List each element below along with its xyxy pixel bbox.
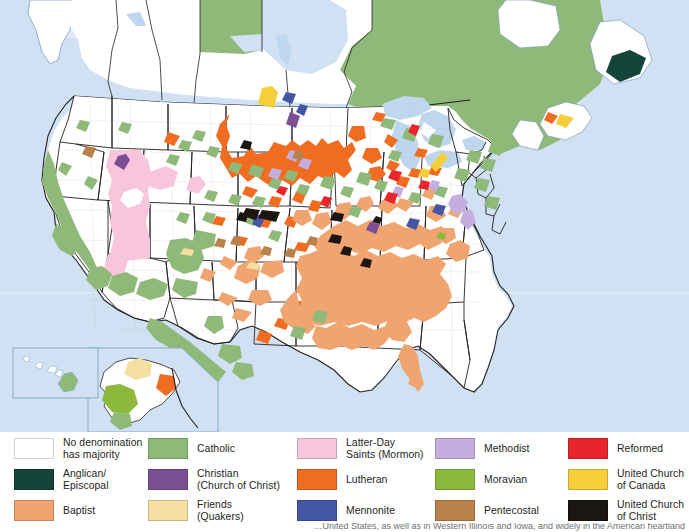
legend-item-reformed[interactable]: Reformed	[568, 433, 689, 464]
legend-label-baptist: Baptist	[63, 505, 95, 516]
legend-column-1: No denomination has majority Anglican/ E…	[14, 433, 146, 526]
legend-label-reformed: Reformed	[617, 443, 663, 454]
legend-swatch-mennonite	[297, 500, 337, 521]
legend-item-pentecostal[interactable]: Pentecostal	[435, 495, 567, 526]
legend-swatch-anglican-episcopal	[14, 469, 54, 490]
legend-label-mennonite: Mennonite	[346, 505, 395, 516]
legend-item-united-church-of-christ[interactable]: United Church of Christ	[568, 495, 689, 526]
legend-swatch-catholic	[148, 438, 188, 459]
legend-label-catholic: Catholic	[197, 443, 235, 454]
legend-item-moravian[interactable]: Moravian	[435, 464, 567, 495]
legend-swatch-christian-church-of-christ	[148, 469, 188, 490]
legend-swatch-latter-day-saints-mormon	[297, 438, 337, 459]
hawaii-inset-frame	[13, 348, 98, 398]
legend-column-5: Reformed United Church of Canada United …	[568, 433, 689, 526]
legend-label-no-denomination-has-majority: No denomination has majority	[63, 437, 142, 460]
legend-item-mennonite[interactable]: Mennonite	[297, 495, 434, 526]
legend-swatch-united-church-of-canada	[568, 469, 608, 490]
legend-swatch-lutheran	[297, 469, 337, 490]
legend-label-friends-quakers: Friends (Quakers)	[197, 499, 244, 522]
legend-swatch-friends-quakers	[148, 500, 188, 521]
legend-item-lutheran[interactable]: Lutheran	[297, 464, 434, 495]
denominations-map-page: No denomination has majority Anglican/ E…	[0, 0, 689, 532]
legend-swatch-moravian	[435, 469, 475, 490]
legend-item-baptist[interactable]: Baptist	[14, 495, 146, 526]
legend-column-3: Latter-Day Saints (Mormon) Lutheran Menn…	[297, 433, 434, 526]
legend-swatch-reformed	[568, 438, 608, 459]
legend-swatch-methodist	[435, 438, 475, 459]
hawaii-inset	[13, 348, 98, 398]
legend-item-friends-quakers[interactable]: Friends (Quakers)	[148, 495, 296, 526]
legend-item-united-church-of-canada[interactable]: United Church of Canada	[568, 464, 689, 495]
legend-column-4: Methodist Moravian Pentecostal	[435, 433, 567, 526]
legend-label-united-church-of-christ: United Church of Christ	[617, 499, 684, 522]
legend-label-christian-church-of-christ: Christian (Church of Christ)	[197, 468, 280, 491]
figure-caption: …United States, as well as in Western Il…	[0, 523, 689, 532]
legend-item-anglican-episcopal[interactable]: Anglican/ Episcopal	[14, 464, 146, 495]
legend-item-latter-day-saints-mormon[interactable]: Latter-Day Saints (Mormon)	[297, 433, 434, 464]
legend-label-moravian: Moravian	[484, 474, 527, 485]
legend-label-methodist: Methodist	[484, 443, 530, 454]
legend-swatch-united-church-of-christ	[568, 500, 608, 521]
legend-column-2: Catholic Christian (Church of Christ) Fr…	[148, 433, 296, 526]
legend-item-no-denomination-has-majority[interactable]: No denomination has majority	[14, 433, 146, 464]
legend-label-lutheran: Lutheran	[346, 474, 387, 485]
map-legend: No denomination has majority Anglican/ E…	[0, 433, 689, 532]
north-america-denomination-map	[0, 0, 689, 432]
legend-item-christian-church-of-christ[interactable]: Christian (Church of Christ)	[148, 464, 296, 495]
map-canvas	[0, 0, 689, 432]
legend-swatch-no-denomination-has-majority	[14, 438, 54, 459]
legend-swatch-baptist	[14, 500, 54, 521]
legend-item-catholic[interactable]: Catholic	[148, 433, 296, 464]
legend-label-united-church-of-canada: United Church of Canada	[617, 468, 684, 491]
legend-swatch-pentecostal	[435, 500, 475, 521]
legend-label-anglican-episcopal: Anglican/ Episcopal	[63, 468, 109, 491]
legend-label-pentecostal: Pentecostal	[484, 505, 539, 516]
legend-label-latter-day-saints-mormon: Latter-Day Saints (Mormon)	[346, 437, 424, 460]
figure-caption-text: …United States, as well as in Western Il…	[0, 523, 689, 532]
legend-item-methodist[interactable]: Methodist	[435, 433, 567, 464]
